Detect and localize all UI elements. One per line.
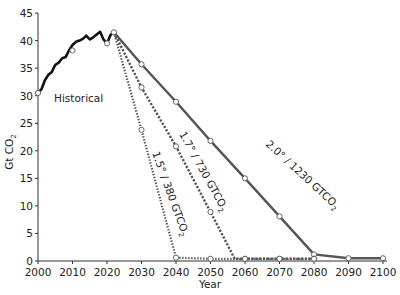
label-1-7-scenario: 1.7° / 730 GTCO2 xyxy=(175,129,231,214)
x-tick-label: 2100 xyxy=(370,266,397,278)
y-tick-label: 35 xyxy=(20,62,33,74)
x-tick-label: 2010 xyxy=(59,266,86,278)
y-tick-label: 5 xyxy=(26,227,33,239)
y-tick-label: 10 xyxy=(20,200,33,212)
x-tick-label: 2030 xyxy=(128,266,155,278)
data-marker xyxy=(173,255,178,260)
data-marker xyxy=(380,256,385,261)
data-marker xyxy=(139,62,144,67)
svg-text:1.7° / 730 GTCO2: 1.7° / 730 GTCO2 xyxy=(175,129,231,214)
x-tick-label: 2070 xyxy=(266,266,293,278)
x-tick-label: 2050 xyxy=(197,266,224,278)
data-marker xyxy=(346,256,351,261)
data-marker xyxy=(208,209,213,214)
x-tick-label: 2060 xyxy=(232,266,259,278)
y-tick-label: 40 xyxy=(20,35,33,47)
y-tick-label: 20 xyxy=(20,145,33,157)
series-layer xyxy=(38,32,383,259)
data-marker xyxy=(242,176,247,181)
emissions-chart: 0510152025303540452000201020202030204020… xyxy=(0,0,400,295)
data-marker xyxy=(242,256,247,261)
y-tick-label: 30 xyxy=(20,90,33,102)
data-marker xyxy=(277,214,282,219)
data-marker xyxy=(70,48,75,53)
data-marker xyxy=(311,256,316,261)
data-marker xyxy=(139,85,144,90)
y-tick-label: 45 xyxy=(20,7,33,19)
svg-text:Gt CO2: Gt CO2 xyxy=(3,134,18,170)
data-marker xyxy=(35,90,40,95)
y-tick-label: 25 xyxy=(20,117,33,129)
x-tick-label: 2090 xyxy=(335,266,362,278)
x-tick-label: 2000 xyxy=(25,266,52,278)
data-marker xyxy=(139,127,144,132)
label-2-0-scenario: 2.0° / 1230 GTCO2 xyxy=(262,138,343,214)
data-marker xyxy=(208,256,213,261)
series-line-historical xyxy=(38,32,114,93)
data-marker xyxy=(277,256,282,261)
y-tick-label: 15 xyxy=(20,172,33,184)
x-tick-label: 2080 xyxy=(301,266,328,278)
x-axis-title: Year xyxy=(198,278,222,290)
series-line-2-0 xyxy=(114,32,383,258)
label-historical: Historical xyxy=(54,92,103,104)
x-tick-label: 2020 xyxy=(94,266,121,278)
x-tick-label: 2040 xyxy=(163,266,190,278)
svg-text:2.0° / 1230 GTCO2: 2.0° / 1230 GTCO2 xyxy=(262,138,343,214)
data-marker xyxy=(104,41,109,46)
data-marker xyxy=(173,99,178,104)
data-marker xyxy=(173,144,178,149)
y-axis-title: Gt CO2 xyxy=(3,134,18,170)
markers-layer xyxy=(35,30,385,262)
data-marker xyxy=(111,30,116,35)
data-marker xyxy=(208,138,213,143)
